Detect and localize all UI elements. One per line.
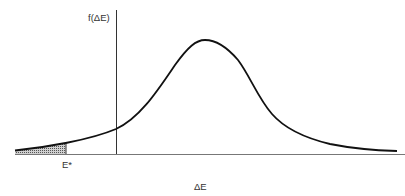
distribution-diagram [0,0,405,196]
y-axis-label: f(ΔE) [88,13,110,23]
x-axis-label: ΔE [194,182,207,192]
threshold-label: E* [62,160,72,170]
distribution-curve [15,40,397,151]
